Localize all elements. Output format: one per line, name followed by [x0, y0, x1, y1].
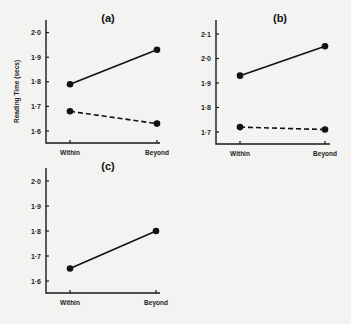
panel-label: (b) [273, 12, 287, 24]
data-point [153, 228, 160, 235]
y-tick-label: 1·9 [31, 54, 41, 61]
x-tick-label: Within [60, 299, 80, 306]
data-point [67, 108, 74, 115]
x-tick-label: Within [60, 149, 80, 156]
data-point [154, 120, 161, 127]
chart-panel-a: 1·61·71·81·92·0WithinBeyond(a)Reading Ti… [13, 12, 169, 157]
data-point [237, 124, 244, 131]
chart-panel-c: 1·61·71·81·92·0WithinBeyond(c) [31, 160, 168, 307]
y-tick-label: 1·8 [31, 78, 41, 85]
data-point [237, 72, 244, 79]
x-tick-label: Within [230, 150, 250, 157]
x-tick-label: Beyond [144, 299, 168, 307]
series-line-solid [240, 46, 325, 75]
data-point [67, 265, 74, 272]
y-tick-label: 1·6 [31, 278, 41, 285]
axes [216, 20, 330, 144]
x-tick-label: Beyond [145, 149, 169, 157]
y-tick-label: 2·0 [201, 55, 211, 62]
panel-label: (a) [101, 12, 115, 24]
y-axis-label: Reading Time (secs) [13, 60, 21, 123]
y-tick-label: 1·7 [31, 103, 41, 110]
series-line-dashed [70, 111, 157, 123]
data-point [322, 43, 329, 50]
y-tick-label: 2·0 [31, 29, 41, 36]
y-tick-label: 2·1 [201, 31, 211, 38]
chart-panel-b: 1·71·81·92·02·1WithinBeyond(b) [201, 12, 337, 158]
axes [46, 20, 160, 143]
series-line-dashed [240, 127, 325, 129]
data-point [67, 81, 74, 88]
y-tick-label: 1·9 [201, 80, 211, 87]
y-tick-label: 1·6 [31, 128, 41, 135]
y-tick-label: 1·7 [201, 129, 211, 136]
data-point [154, 47, 161, 54]
y-tick-label: 1·8 [201, 104, 211, 111]
panel-label: (c) [101, 160, 115, 172]
x-tick-label: Beyond [313, 150, 337, 158]
y-tick-label: 1·9 [31, 203, 41, 210]
axes [46, 168, 160, 293]
series-line-solid [70, 50, 157, 84]
figure: 1·61·71·81·92·0WithinBeyond(a)Reading Ti… [0, 0, 351, 324]
y-tick-label: 1·8 [31, 228, 41, 235]
y-tick-label: 2·0 [31, 178, 41, 185]
data-point [322, 126, 329, 133]
series-line-solid [70, 231, 156, 269]
y-tick-label: 1·7 [31, 253, 41, 260]
